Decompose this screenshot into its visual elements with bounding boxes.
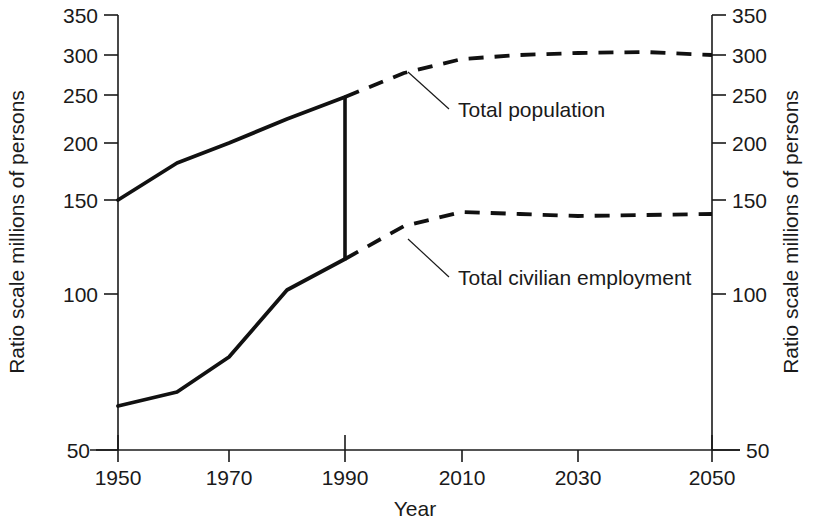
y-ticks-left: 350 300 250 200 150 100 50 [63,4,118,462]
x-ticks: 1950 1970 1990 2010 2030 2050 [95,435,736,489]
y-tick-label-right-150: 150 [732,189,767,212]
y-tick-label-right-300: 300 [732,44,767,67]
total-civilian-employment-label: Total civilian employment [458,266,692,289]
x-tick-label-2030: 2030 [555,466,602,489]
y-tick-label-left-50: 50 [67,439,90,462]
y-tick-label-left-100: 100 [63,283,98,306]
x-tick-label-1950: 1950 [95,466,142,489]
y-tick-label-left-250: 250 [63,84,98,107]
y-ticks-right: 350 300 250 200 150 100 50 [712,4,769,462]
y-tick-label-right-250: 250 [732,84,767,107]
total-population-leader-line [408,72,449,109]
y-tick-label-left-200: 200 [63,132,98,155]
y-tick-label-left-300: 300 [63,44,98,67]
y-tick-label-right-200: 200 [732,132,767,155]
total-population-label: Total population [458,98,605,121]
series-total-civilian-employment [118,212,712,406]
y-tick-label-right-50: 50 [746,439,769,462]
y-tick-label-right-350: 350 [732,4,767,27]
x-tick-label-1990: 1990 [322,466,369,489]
y-tick-label-left-350: 350 [63,4,98,27]
series-total-population [118,52,712,200]
x-axis-title: Year [394,497,436,520]
total-civilian-employment-leader-line [408,239,449,277]
ratio-scale-line-chart: 350 300 250 200 150 100 50 350 300 250 2… [0,0,815,520]
x-tick-label-1970: 1970 [206,466,253,489]
chart-svg: 350 300 250 200 150 100 50 350 300 250 2… [0,0,815,520]
x-tick-label-2050: 2050 [689,466,736,489]
total-civilian-employment-projected-line [345,212,712,259]
y-tick-label-left-150: 150 [63,189,98,212]
y-axis-title-right: Ratio scale millions of persons [779,90,802,374]
x-tick-label-2010: 2010 [439,466,486,489]
total-civilian-employment-actual-line [118,259,345,406]
y-tick-label-right-100: 100 [732,283,767,306]
total-population-actual-line [118,97,345,200]
total-population-projected-line [345,52,712,97]
y-axis-title-left: Ratio scale millions of persons [5,90,28,374]
